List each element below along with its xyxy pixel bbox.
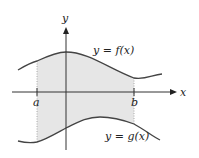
label-g: y = g(x): [104, 130, 149, 143]
label-b: b: [131, 96, 138, 109]
x-axis-label: x: [180, 86, 187, 99]
label-a: a: [33, 96, 40, 109]
label-f: y = f(x): [92, 44, 134, 57]
y-axis-label: y: [61, 12, 69, 25]
diagram-labels: x y a b y = f(x) y = g(x): [0, 0, 199, 158]
